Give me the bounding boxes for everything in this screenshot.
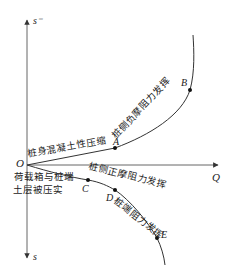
annotation-origin-line1: 荷载箱与桩端: [14, 172, 74, 182]
point-c: [86, 178, 90, 182]
annotation-origin-line2: 土层被压实: [13, 185, 63, 195]
axis-label-s-negative: s⁻: [33, 16, 42, 26]
axis-label-s: s: [33, 252, 37, 262]
point-label-c: C: [82, 184, 89, 194]
axis-label-q: Q: [212, 172, 220, 183]
point-d: [113, 188, 117, 192]
point-b: [188, 88, 192, 92]
origin-label: O: [16, 158, 24, 169]
point-label-b: B: [181, 78, 187, 88]
